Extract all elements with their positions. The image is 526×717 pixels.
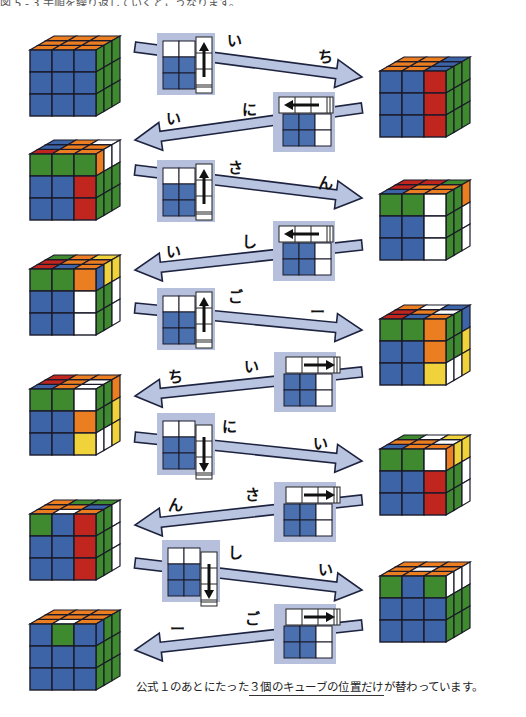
- caption: 公式１のあとにたった３個のキューブの位置だけが替わっています。: [136, 678, 483, 694]
- rubiks-cube: [30, 610, 120, 690]
- caption-before: 公式１のあとにたった: [136, 680, 249, 694]
- syllable-label: ご: [228, 290, 243, 305]
- syllable-label: さ: [228, 161, 243, 176]
- syllable-label: し: [228, 546, 243, 561]
- syllable-label: ち: [168, 370, 183, 385]
- move-diagram-up: [157, 288, 215, 350]
- syllable-label: ん: [168, 498, 183, 513]
- syllable-label: ち: [318, 50, 333, 65]
- rubiks-cube: [380, 435, 470, 515]
- caption-underlined: ３個のキューブの位置だけ: [249, 680, 384, 696]
- syllable-label: ー: [170, 622, 185, 637]
- move-diagram-right: [274, 482, 340, 542]
- move-diagram-down: [162, 540, 220, 606]
- syllable-label: い: [166, 245, 181, 260]
- rubiks-cube: [30, 375, 120, 455]
- move-diagram-right: [274, 604, 340, 664]
- syllable-label: い: [313, 437, 328, 452]
- move-diagram-left: [273, 92, 335, 152]
- move-diagram-up: [157, 33, 215, 95]
- move-diagram-right: [274, 352, 340, 412]
- syllable-label: い: [244, 360, 259, 375]
- syllable-label: い: [166, 112, 181, 127]
- move-diagram-up: [157, 160, 215, 222]
- syllable-label: さ: [245, 488, 260, 503]
- syllable-label: ん: [318, 176, 333, 191]
- rubiks-cube: [380, 180, 470, 260]
- move-diagram-left: [273, 221, 335, 281]
- syllable-label: ご: [245, 612, 260, 627]
- rubiks-cube: [30, 140, 120, 220]
- syllable-label: ー: [310, 305, 325, 320]
- rubiks-cube: [30, 255, 120, 335]
- rubiks-cube: [30, 500, 120, 580]
- syllable-label: に: [222, 420, 237, 435]
- rubiks-cube: [380, 305, 470, 385]
- syllable-label: し: [242, 235, 257, 250]
- rubiks-cube: [380, 562, 470, 642]
- rubiks-cube: [380, 57, 470, 137]
- move-diagram-down: [157, 413, 215, 479]
- syllable-label: に: [242, 103, 257, 118]
- rubiks-cube: [30, 36, 120, 116]
- caption-after: が替わっています。: [384, 680, 484, 694]
- syllable-label: い: [227, 34, 242, 49]
- cube-sequence-diagram: [0, 0, 526, 717]
- syllable-label: い: [318, 563, 333, 578]
